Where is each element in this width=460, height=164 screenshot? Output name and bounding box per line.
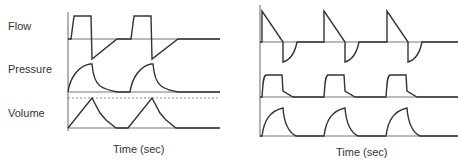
left-volume-trace (68, 98, 220, 128)
right-flow-trace (260, 11, 458, 62)
right-pressure-trace (260, 75, 458, 97)
ventilator-waveform-diagram (0, 0, 460, 164)
left-panel (68, 12, 220, 131)
left-pressure-trace (68, 64, 220, 92)
left-flow-trace (68, 16, 220, 59)
right-panel (260, 5, 458, 137)
right-volume-trace (260, 108, 458, 136)
